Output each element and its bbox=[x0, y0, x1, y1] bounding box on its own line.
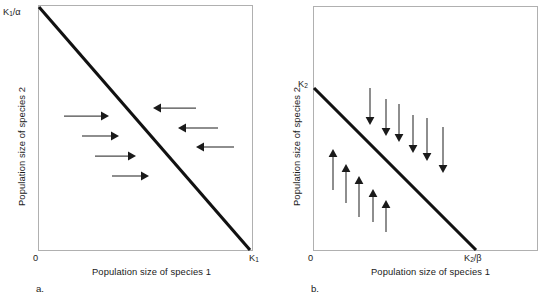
figure-container: Population size of species 2 Population … bbox=[0, 0, 547, 303]
arrow-up-5 bbox=[382, 200, 391, 232]
panel-b: Population size of species 2 Population … bbox=[273, 0, 547, 303]
arrow-up-3 bbox=[355, 176, 364, 217]
origin-tick-b: 0 bbox=[308, 253, 313, 263]
arrow-left-3 bbox=[196, 143, 234, 152]
x-axis-label-b: Population size of species 1 bbox=[371, 266, 490, 277]
x-max-tick-b: K2/β bbox=[464, 253, 482, 263]
isocline-line-a bbox=[39, 7, 250, 250]
arrow-down-1 bbox=[366, 88, 375, 125]
arrow-right-2 bbox=[82, 132, 119, 141]
plot-graphics-a bbox=[0, 0, 274, 303]
arrow-left-1 bbox=[153, 104, 196, 113]
arrow-right-3 bbox=[95, 152, 136, 161]
y-max-tick-a-tail: /α bbox=[13, 7, 21, 17]
arrow-left-2 bbox=[178, 124, 218, 133]
arrow-down-5 bbox=[423, 118, 432, 161]
x-max-tick-a-sub: 1 bbox=[255, 256, 259, 263]
arrow-up-1 bbox=[329, 149, 338, 190]
arrow-down-3 bbox=[395, 104, 404, 142]
arrow-down-4 bbox=[409, 115, 418, 153]
panel-letter-b: b. bbox=[311, 283, 319, 294]
arrow-down-2 bbox=[382, 99, 391, 136]
y-axis-label-b: Population size of species 2 bbox=[291, 87, 302, 206]
plot-graphics-b bbox=[273, 0, 547, 303]
panel-letter-a: a. bbox=[36, 283, 44, 294]
y-max-tick-b: K2 bbox=[298, 79, 308, 89]
arrow-right-4 bbox=[112, 172, 149, 181]
arrow-up-2 bbox=[342, 164, 351, 203]
arrow-down-6 bbox=[439, 127, 448, 173]
panel-a: Population size of species 2 Population … bbox=[0, 0, 274, 303]
y-max-tick-a: K1/α bbox=[3, 7, 21, 17]
arrow-up-4 bbox=[369, 189, 378, 222]
x-axis-label-a: Population size of species 1 bbox=[92, 266, 211, 277]
y-axis-label-a: Population size of species 2 bbox=[16, 87, 27, 206]
origin-tick-a: 0 bbox=[33, 253, 38, 263]
arrow-right-1 bbox=[64, 112, 109, 121]
y-max-tick-b-sub: 2 bbox=[304, 82, 308, 89]
x-max-tick-b-tail: /β bbox=[474, 253, 482, 263]
isocline-line-b bbox=[314, 88, 476, 250]
x-max-tick-a: K1 bbox=[249, 253, 259, 263]
